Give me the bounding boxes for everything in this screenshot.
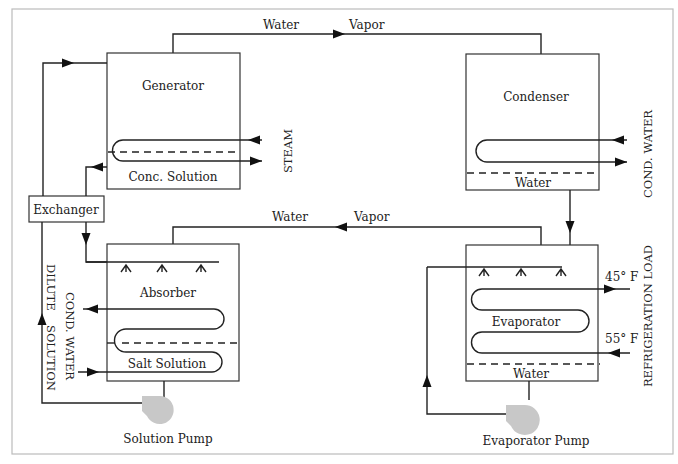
top-water-label: Water	[263, 18, 299, 32]
evaporator-sublabel: Water	[513, 367, 549, 381]
absorber-label: Absorber	[139, 286, 196, 300]
exchanger: Exchanger	[29, 196, 104, 222]
evaporator-label: Evaporator	[492, 315, 561, 329]
condenser-label: Condenser	[503, 90, 569, 104]
cond-water-label-right: COND. WATER	[641, 110, 655, 198]
absorption-cycle-diagram: Water Vapor Generator Conc. Solution STE…	[0, 0, 678, 464]
dilute-label: DILUTE	[44, 264, 58, 311]
absorber-sublabel: Salt Solution	[128, 357, 207, 371]
mid-vapor-label: Vapor	[353, 210, 390, 224]
solution-label: SOLUTION	[44, 325, 58, 391]
refrigeration-load-label: REFRIGERATION LOAD	[641, 245, 655, 387]
generator-label: Generator	[142, 79, 204, 93]
steam-label: STEAM	[281, 129, 295, 173]
exchanger-label: Exchanger	[33, 203, 99, 217]
mid-water-label: Water	[272, 210, 308, 224]
evaporator-box	[466, 245, 598, 381]
condenser-sublabel: Water	[515, 176, 551, 190]
supply-temp-label: 45° F	[605, 270, 638, 284]
condenser-box	[466, 54, 599, 190]
generator-box	[107, 53, 240, 189]
cond-water-label-left: COND. WATER	[63, 292, 77, 380]
top-vapor-label: Vapor	[348, 18, 385, 32]
evaporator-pump-label: Evaporator Pump	[483, 434, 590, 448]
return-temp-label: 55° F	[605, 332, 638, 346]
generator-sublabel: Conc. Solution	[128, 170, 217, 184]
solution-pump-label: Solution Pump	[123, 432, 213, 446]
